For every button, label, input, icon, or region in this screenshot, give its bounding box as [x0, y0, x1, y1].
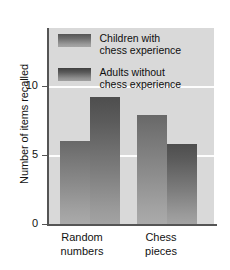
legend-label-children: Children with chess experience: [100, 32, 182, 56]
bar-random-numbers-adults: [90, 97, 120, 224]
legend: Children with chess experience Adults wi…: [49, 28, 214, 100]
bar-random-numbers-children: [60, 141, 90, 224]
x-tick-label-random-numbers: Random numbers: [49, 231, 115, 258]
plot-area: Children with chess experience Adults wi…: [49, 28, 214, 224]
legend-label-adults: Adults without chess experience: [100, 66, 182, 90]
y-tick-label-10: 10: [0, 80, 38, 91]
y-tick-label-5: 5: [0, 149, 38, 160]
x-tick-label-chess-pieces: Chess pieces: [128, 231, 194, 258]
y-axis-title: Number of items recalled: [18, 34, 30, 214]
legend-item-children: Children with chess experience: [58, 32, 182, 56]
x-axis-line: [47, 224, 217, 226]
y-tick-label-0: 0: [0, 218, 38, 229]
bar-chart-figure: Number of items recalled 10 5 0 Children…: [0, 0, 230, 270]
bar-chess-pieces-adults: [167, 144, 197, 224]
legend-swatch-adults: [58, 68, 91, 81]
legend-swatch-children: [58, 34, 91, 47]
legend-item-adults: Adults without chess experience: [58, 66, 182, 90]
bar-chess-pieces-children: [137, 115, 167, 224]
